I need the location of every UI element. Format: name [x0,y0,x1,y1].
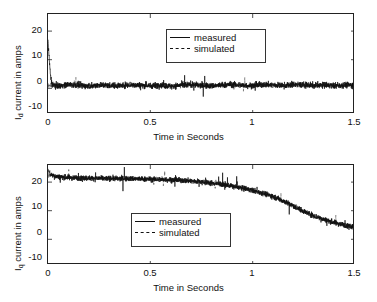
iq-legend-measured-label: measured [159,216,201,227]
id-legend-simulated-label: simulated [194,43,235,54]
ytick-20-bottom: 20 [18,175,42,186]
solid-line-icon [135,216,155,227]
id-legend-row-measured: measured [170,32,261,43]
iq-legend-row-measured: measured [135,216,226,227]
iq-current-panel: Iq current in amps 20 10 0 -10 [0,151,377,302]
dashed-line-icon [170,43,190,54]
iq-xaxis-label: Time in Seconds [0,282,377,293]
xtick-05-bottom: 0.5 [137,267,163,278]
id-axis-subscript: d [17,113,24,117]
iq-legend-row-simulated: simulated [135,227,226,238]
solid-line-icon [170,32,190,43]
ytick-10-top: 10 [18,49,42,60]
xtick-15-top: 1.5 [341,116,367,127]
iq-axis-subscript: q [17,264,24,268]
id-legend-measured-label: measured [194,32,236,43]
id-xaxis-label: Time in Seconds [0,131,377,142]
xtick-1-bottom: 1 [244,267,260,278]
id-legend: measured simulated [166,29,266,63]
ytick-neg10-bottom: -10 [14,251,42,262]
ytick-20-top: 20 [18,24,42,35]
ytick-neg10-top: -10 [14,100,42,111]
iq-axis-symbol: I [12,268,23,271]
dashed-line-icon [135,227,155,238]
xtick-0-bottom: 0 [40,267,56,278]
xtick-0-top: 0 [40,116,56,127]
id-legend-row-simulated: simulated [170,43,261,54]
id-axis-symbol: I [12,117,23,120]
xtick-1-top: 1 [244,116,260,127]
xtick-15-bottom: 1.5 [341,267,367,278]
figure-canvas: Id current in amps 20 10 0 -10 [0,0,377,302]
iq-legend: measured simulated [131,213,231,247]
id-current-panel: Id current in amps 20 10 0 -10 [0,0,377,151]
ytick-0-top: 0 [18,75,42,86]
ytick-10-bottom: 10 [18,200,42,211]
xtick-05-top: 0.5 [137,116,163,127]
iq-legend-simulated-label: simulated [159,227,200,238]
ytick-0-bottom: 0 [18,226,42,237]
id-plot-area [47,13,354,113]
